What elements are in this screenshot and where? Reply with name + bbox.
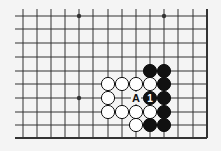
- white-stone: [129, 118, 142, 131]
- go-board-diagram: A1: [0, 0, 221, 151]
- black-stone: [157, 105, 170, 118]
- black-stone: [157, 118, 170, 131]
- black-stone: [143, 64, 156, 77]
- white-stone: [115, 77, 128, 90]
- white-stone: [129, 105, 142, 118]
- star-point: [77, 96, 81, 100]
- white-stone: [101, 77, 114, 90]
- white-stone: [101, 91, 114, 104]
- white-stone: [129, 77, 142, 90]
- point-label-a: A: [132, 92, 140, 104]
- white-stone: [143, 105, 156, 118]
- star-point: [77, 14, 81, 18]
- black-stone: [157, 91, 170, 104]
- black-stone: [157, 64, 170, 77]
- move-number-label: 1: [147, 93, 153, 104]
- black-stone: [157, 77, 170, 90]
- white-stone: [143, 77, 156, 90]
- white-stone: [101, 105, 114, 118]
- white-stone: [115, 105, 128, 118]
- star-point: [162, 14, 166, 18]
- black-stone: [143, 118, 156, 131]
